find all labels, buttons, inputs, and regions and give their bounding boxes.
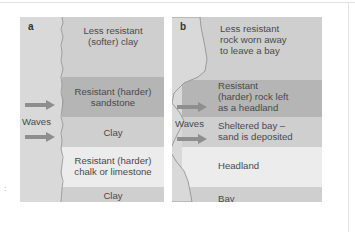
wave-arrow-icon bbox=[177, 102, 207, 112]
band-less-resistant-clay: Less resistant (softer) clay bbox=[62, 25, 164, 47]
band-less-resistant-rock: Less resistant rock worn away to leave a… bbox=[220, 23, 287, 56]
panel-a-letter: a bbox=[28, 21, 34, 32]
page-mark: : bbox=[4, 185, 8, 193]
panel-b-letter: b bbox=[180, 21, 186, 32]
band-clay-2: Clay bbox=[62, 190, 164, 201]
waves-label: Waves bbox=[175, 118, 204, 129]
wave-arrow-icon bbox=[25, 132, 55, 142]
band-chalk-limestone: Resistant (harder) chalk or limestone bbox=[62, 155, 164, 177]
wave-arrow-icon bbox=[25, 100, 55, 110]
waves-label: Waves bbox=[22, 116, 51, 127]
right-border bbox=[348, 2, 349, 232]
band-headland: Headland bbox=[218, 160, 259, 171]
band-clay-1: Clay bbox=[62, 127, 164, 138]
panel-b-headlands-bays: b Less resistant rock worn away to leave… bbox=[172, 17, 322, 202]
band-resistant-headland-rock: Resistant (harder) rock left as a headla… bbox=[218, 80, 288, 113]
band-sandstone: Resistant (harder) sandstone bbox=[62, 86, 164, 108]
band-bay: Bay bbox=[218, 193, 235, 202]
panel-a-straight-coast: a Less resistant (softer) clay Resistant… bbox=[20, 17, 164, 202]
wave-arrow-icon bbox=[177, 134, 207, 144]
band-sheltered-bay: Sheltered bay – sand is deposited bbox=[218, 120, 293, 142]
top-border bbox=[0, 2, 355, 3]
